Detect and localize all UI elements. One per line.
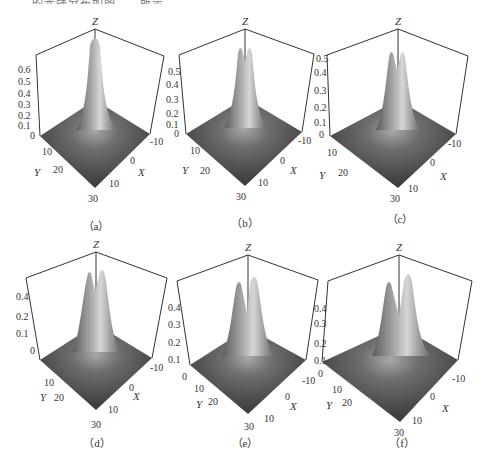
svg-text:0.3: 0.3 bbox=[18, 99, 31, 110]
svg-text:0.1: 0.1 bbox=[168, 354, 181, 365]
svg-text:0: 0 bbox=[174, 128, 179, 139]
svg-text:20: 20 bbox=[53, 164, 63, 175]
surface-plot-a-canvas: Z 0.6 0.5 0.4 0.3 0.2 0.1 0 10 Y 20 30 -… bbox=[16, 14, 178, 229]
svg-text:0.2: 0.2 bbox=[16, 311, 29, 322]
surface-plot-f: Z 0.4 0.3 0.2 0.1 0 10 Y 20 30 -10 0 X 1… bbox=[320, 240, 482, 455]
svg-text:30: 30 bbox=[236, 191, 246, 202]
svg-text:0.4: 0.4 bbox=[168, 302, 181, 313]
svg-text:0: 0 bbox=[430, 157, 435, 168]
svg-text:0.4: 0.4 bbox=[18, 88, 31, 99]
svg-text:Z: Z bbox=[396, 241, 403, 253]
surface-plot-c-canvas: Z 0.5 0.4 0.3 0.2 0.1 0 10 Y 20 30 -10 0… bbox=[320, 14, 482, 229]
svg-text:10: 10 bbox=[108, 404, 118, 415]
svg-text:0: 0 bbox=[182, 371, 187, 382]
svg-text:-10: -10 bbox=[298, 135, 311, 146]
svg-text:0.3: 0.3 bbox=[314, 85, 327, 96]
svg-text:X: X bbox=[441, 402, 450, 414]
svg-text:X: X bbox=[289, 400, 298, 412]
svg-text:10: 10 bbox=[109, 178, 119, 189]
svg-text:Z: Z bbox=[395, 15, 402, 27]
svg-text:0.2: 0.2 bbox=[168, 337, 181, 348]
svg-text:0: 0 bbox=[318, 368, 323, 379]
svg-text:-10: -10 bbox=[302, 375, 315, 386]
svg-text:X: X bbox=[132, 390, 141, 402]
svg-text:0.3: 0.3 bbox=[314, 318, 327, 329]
caption-e: （e） bbox=[232, 434, 259, 450]
svg-text:0: 0 bbox=[319, 129, 324, 140]
svg-text:-10: -10 bbox=[150, 362, 163, 373]
svg-text:30: 30 bbox=[244, 421, 254, 432]
svg-text:0.4: 0.4 bbox=[314, 67, 327, 78]
caption-f: （f） bbox=[389, 434, 415, 450]
svg-text:0.5: 0.5 bbox=[168, 66, 181, 77]
svg-text:0.5: 0.5 bbox=[316, 53, 329, 64]
svg-text:20: 20 bbox=[338, 167, 348, 178]
svg-text:0.3: 0.3 bbox=[166, 94, 179, 105]
svg-text:X: X bbox=[137, 166, 146, 178]
surface-plot-b-canvas: Z 0.5 0.4 0.3 0.2 0.1 0 10 Y 20 30 -10 0… bbox=[166, 14, 328, 229]
svg-text:X: X bbox=[439, 170, 448, 182]
svg-text:10: 10 bbox=[332, 384, 342, 395]
caption-c: （c） bbox=[387, 210, 414, 226]
svg-text:0: 0 bbox=[430, 391, 435, 402]
svg-text:0: 0 bbox=[280, 155, 285, 166]
svg-text:Y: Y bbox=[196, 398, 204, 410]
svg-text:0.4: 0.4 bbox=[166, 79, 179, 90]
svg-text:0: 0 bbox=[30, 130, 35, 141]
svg-text:0.1: 0.1 bbox=[16, 328, 29, 339]
surface-plot-a: Z 0.6 0.5 0.4 0.3 0.2 0.1 0 10 Y 20 30 -… bbox=[16, 14, 178, 229]
svg-text:0.1: 0.1 bbox=[314, 355, 327, 366]
svg-text:10: 10 bbox=[44, 377, 54, 388]
surface-plot-e: Z 0.4 0.3 0.2 0.1 0 10 Y 20 30 -10 0 X 1… bbox=[166, 240, 328, 455]
svg-text:10: 10 bbox=[194, 383, 204, 394]
surface-plot-d: Z 0.4 0.2 0.1 0 10 Y 20 30 -10 0 X 10 bbox=[16, 240, 178, 455]
surface-plot-f-canvas: Z 0.4 0.3 0.2 0.1 0 10 Y 20 30 -10 0 X 1… bbox=[320, 240, 482, 455]
svg-text:30: 30 bbox=[390, 193, 400, 204]
svg-text:30: 30 bbox=[91, 419, 101, 430]
caption-a: （a） bbox=[83, 217, 110, 233]
svg-text:-10: -10 bbox=[150, 136, 163, 147]
svg-text:0: 0 bbox=[30, 345, 35, 356]
svg-text:0.5: 0.5 bbox=[18, 76, 31, 87]
svg-text:Z: Z bbox=[242, 15, 249, 27]
svg-text:20: 20 bbox=[342, 397, 352, 408]
surface-plot-c: Z 0.5 0.4 0.3 0.2 0.1 0 10 Y 20 30 -10 0… bbox=[320, 14, 482, 229]
svg-text:30: 30 bbox=[88, 193, 98, 204]
svg-text:10: 10 bbox=[42, 146, 52, 157]
svg-text:20: 20 bbox=[54, 392, 64, 403]
svg-text:10: 10 bbox=[258, 177, 268, 188]
svg-text:10: 10 bbox=[412, 415, 422, 426]
surface-plot-b: Z 0.5 0.4 0.3 0.2 0.1 0 10 Y 20 30 -10 0… bbox=[166, 14, 328, 229]
svg-text:10: 10 bbox=[190, 145, 200, 156]
svg-text:10: 10 bbox=[264, 413, 274, 424]
svg-text:0.4: 0.4 bbox=[16, 291, 29, 302]
surface-plot-e-canvas: Z 0.4 0.3 0.2 0.1 0 10 Y 20 30 -10 0 X 1… bbox=[166, 240, 328, 455]
svg-text:Z: Z bbox=[245, 241, 252, 253]
svg-text:Y: Y bbox=[182, 164, 190, 176]
svg-text:X: X bbox=[289, 164, 298, 176]
svg-text:10: 10 bbox=[408, 183, 418, 194]
svg-text:0.3: 0.3 bbox=[168, 319, 181, 330]
truncated-body-text: ……的光强分布如图……所示 bbox=[8, 0, 238, 4]
caption-b: （b） bbox=[231, 214, 259, 230]
svg-text:0.2: 0.2 bbox=[314, 338, 327, 349]
svg-text:Y: Y bbox=[34, 166, 42, 178]
svg-text:10: 10 bbox=[327, 147, 337, 158]
svg-text:Y: Y bbox=[326, 399, 334, 411]
svg-text:20: 20 bbox=[208, 396, 218, 407]
svg-text:-10: -10 bbox=[448, 138, 461, 149]
svg-text:0.2: 0.2 bbox=[166, 108, 179, 119]
svg-text:Y: Y bbox=[319, 169, 327, 181]
svg-text:0.6: 0.6 bbox=[18, 64, 31, 75]
svg-text:0: 0 bbox=[130, 155, 135, 166]
svg-text:0.1: 0.1 bbox=[18, 120, 31, 131]
svg-text:0.4: 0.4 bbox=[314, 303, 327, 314]
surface-plot-d-canvas: Z 0.4 0.2 0.1 0 10 Y 20 30 -10 0 X 10 bbox=[16, 240, 178, 455]
caption-d: （d） bbox=[83, 434, 111, 450]
svg-text:Y: Y bbox=[40, 391, 48, 403]
svg-text:0.1: 0.1 bbox=[314, 117, 327, 128]
z-axis-label: Z bbox=[92, 15, 99, 27]
svg-text:-10: -10 bbox=[452, 373, 465, 384]
svg-text:0.2: 0.2 bbox=[314, 102, 327, 113]
svg-text:20: 20 bbox=[200, 165, 210, 176]
